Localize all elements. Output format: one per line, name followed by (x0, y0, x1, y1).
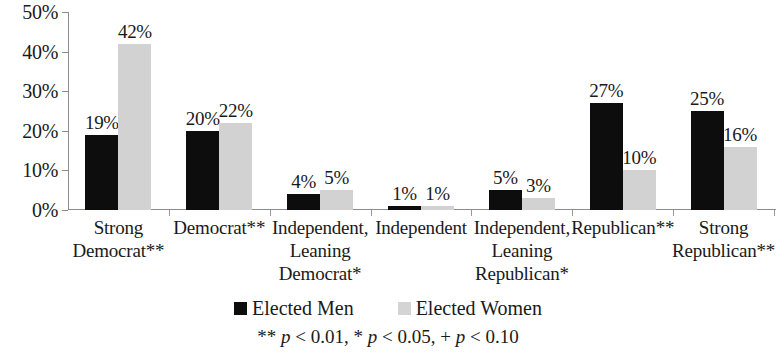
bar-elected-women: 5% (320, 190, 353, 210)
bar-elected-men: 20% (186, 131, 219, 210)
bar-elected-men: 5% (489, 190, 522, 210)
y-axis-tick-label: 20% (0, 121, 58, 141)
bar-group-bars: 4%5% (287, 12, 353, 210)
bar-group: 5%3% (489, 12, 555, 210)
bar-group-bars: 20%22% (186, 12, 252, 210)
footnote-p-2: p (368, 326, 378, 347)
bar-elected-men: 27% (590, 103, 623, 210)
bar-group: 4%5% (287, 12, 353, 210)
footnote-text-2: < 0.05, + (377, 326, 455, 347)
bar-elected-men: 4% (287, 194, 320, 210)
bar-value-label: 42% (118, 22, 152, 42)
legend-item-elected-men[interactable]: Elected Men (234, 298, 354, 319)
footnote-p-1: p (281, 326, 291, 347)
bar-value-label: 4% (291, 172, 316, 192)
bar-elected-men: 19% (85, 135, 118, 210)
bar-chart: 0%10%20%30%40%50% 19%42%20%22%4%5%1%1%5%… (0, 0, 776, 352)
bar-elected-men: 25% (691, 111, 724, 210)
legend-label: Elected Women (416, 298, 542, 319)
bar-group: 1%1% (388, 12, 454, 210)
bar-elected-women: 1% (421, 206, 454, 210)
x-axis-category-label: Strong Democrat** (62, 216, 175, 262)
bar-elected-women: 42% (118, 44, 151, 210)
bar-value-label: 25% (690, 89, 724, 109)
bar-value-label: 1% (425, 184, 450, 204)
footnote-text-1: < 0.01, * (291, 326, 368, 347)
bar-elected-women: 3% (522, 198, 555, 210)
bar-group: 19%42% (85, 12, 151, 210)
bar-group-bars: 19%42% (85, 12, 151, 210)
x-axis-category-label: Democrat** (163, 216, 276, 239)
bar-group: 27%10% (590, 12, 656, 210)
bar-group: 25%16% (691, 12, 757, 210)
bar-value-label: 1% (392, 184, 417, 204)
x-axis-category-label: Strong Republican** (667, 216, 776, 262)
x-axis-category-label: Independent, Leaning Republican* (465, 216, 578, 285)
bar-value-label: 22% (219, 101, 253, 121)
bar-group-bars: 5%3% (489, 12, 555, 210)
bar-value-label: 27% (589, 81, 623, 101)
legend-swatch-icon (234, 302, 247, 315)
footnote-stars-1: ** (257, 326, 281, 347)
y-axis-tick-label: 30% (0, 81, 58, 101)
footnote-p-3: p (456, 326, 466, 347)
bar-elected-men: 1% (388, 206, 421, 210)
x-axis-category-label: Independent, Leaning Democrat* (264, 216, 377, 285)
legend-swatch-icon (398, 302, 411, 315)
bar-elected-women: 22% (219, 123, 252, 210)
x-axis-category-label: Republican** (566, 216, 679, 239)
bar-value-label: 5% (324, 168, 349, 188)
bar-value-label: 19% (85, 113, 119, 133)
bar-elected-women: 16% (724, 147, 757, 210)
plot-area: 19%42%20%22%4%5%1%1%5%3%27%10%25%16% (68, 12, 774, 210)
legend-label: Elected Men (252, 298, 354, 319)
footnote-text-3: < 0.10 (465, 326, 518, 347)
bar-value-label: 5% (493, 168, 518, 188)
y-axis-tick-label: 50% (0, 2, 58, 22)
bar-group-bars: 1%1% (388, 12, 454, 210)
bar-group-bars: 25%16% (691, 12, 757, 210)
legend-item-elected-women[interactable]: Elected Women (398, 298, 542, 319)
y-axis-tick-label: 0% (0, 200, 58, 220)
chart-footnote: ** p < 0.01, * p < 0.05, + p < 0.10 (0, 326, 776, 348)
chart-legend: Elected MenElected Women (0, 298, 776, 319)
y-axis-tick-label: 10% (0, 160, 58, 180)
x-axis-category-label: Independent (365, 216, 478, 239)
bar-group-bars: 27%10% (590, 12, 656, 210)
bar-value-label: 3% (526, 176, 551, 196)
bar-value-label: 20% (186, 109, 220, 129)
bar-value-label: 16% (723, 125, 757, 145)
y-axis-tick-label: 40% (0, 42, 58, 62)
bar-group: 20%22% (186, 12, 252, 210)
bar-value-label: 10% (622, 148, 656, 168)
bar-elected-women: 10% (623, 170, 656, 210)
y-axis-tick (62, 210, 68, 211)
